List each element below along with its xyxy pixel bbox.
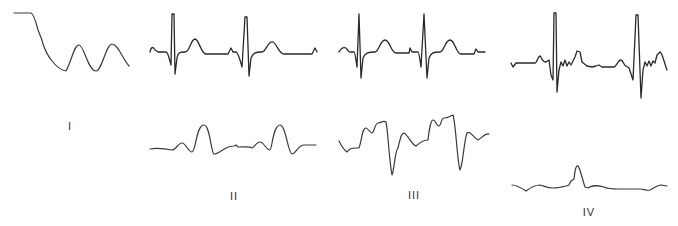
panel-label-ii: II xyxy=(230,191,238,202)
waveform-figure xyxy=(0,0,678,226)
panel-iii-bottom-trace xyxy=(339,115,489,175)
panel-i-trace xyxy=(14,13,129,71)
panel-ii-top-trace xyxy=(150,14,317,76)
panel-iv-top-trace xyxy=(511,13,667,98)
panel-iii-top-trace xyxy=(339,14,485,78)
panel-iv-bottom-trace xyxy=(512,166,667,191)
panel-label-iv: IV xyxy=(583,207,595,218)
panel-ii-bottom-trace xyxy=(150,125,316,154)
panel-label-i: I xyxy=(68,121,72,132)
panel-label-iii: III xyxy=(408,190,420,201)
